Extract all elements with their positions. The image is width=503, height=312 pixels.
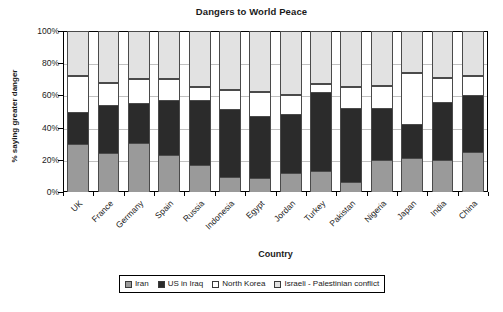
bar-segment[interactable] <box>189 31 211 87</box>
bar-segment[interactable] <box>67 76 89 111</box>
bar-segment[interactable] <box>158 31 180 79</box>
bar-slot <box>427 31 457 192</box>
bar-segment[interactable] <box>219 31 241 90</box>
stacked-bar[interactable] <box>189 31 211 192</box>
bar-segment[interactable] <box>340 87 362 107</box>
bar-segment[interactable] <box>189 100 211 164</box>
bar-segment[interactable] <box>371 86 393 109</box>
bar-segment[interactable] <box>432 160 454 192</box>
stacked-bar[interactable] <box>249 31 271 192</box>
stacked-bar[interactable] <box>67 31 89 192</box>
bar-segment[interactable] <box>371 31 393 86</box>
stacked-bar[interactable] <box>219 31 241 192</box>
bar-segment[interactable] <box>219 109 241 177</box>
y-axis-tick-label: 60% <box>25 91 59 100</box>
bar-slot <box>184 31 214 192</box>
bar-segment[interactable] <box>280 95 302 114</box>
x-axis-tick-mark <box>367 192 368 196</box>
bar-segment[interactable] <box>401 124 423 158</box>
legend-swatch-icon <box>274 281 281 288</box>
stacked-bar[interactable] <box>128 31 150 192</box>
x-axis-category-label: India <box>429 199 448 218</box>
bar-segment[interactable] <box>310 84 332 92</box>
y-axis-tick-label: 40% <box>25 124 59 133</box>
stacked-bar[interactable] <box>98 31 120 192</box>
bar-segment[interactable] <box>189 87 211 100</box>
bar-segment[interactable] <box>310 171 332 192</box>
bar-segment[interactable] <box>432 31 454 78</box>
bar-segment[interactable] <box>158 155 180 192</box>
bar-slot <box>336 31 366 192</box>
bar-segment[interactable] <box>98 83 120 106</box>
bar-segment[interactable] <box>371 160 393 192</box>
bar-segment[interactable] <box>249 116 271 178</box>
bar-segment[interactable] <box>249 31 271 92</box>
x-axis-category-label: Spain <box>154 199 176 221</box>
bar-slot <box>276 31 306 192</box>
bar-segment[interactable] <box>249 92 271 116</box>
legend-item[interactable]: Israeli - Palestinian conflict <box>274 280 379 288</box>
stacked-bar[interactable] <box>158 31 180 192</box>
bar-segment[interactable] <box>371 108 393 160</box>
stacked-bar[interactable] <box>432 31 454 192</box>
stacked-bar[interactable] <box>371 31 393 192</box>
bar-segment[interactable] <box>249 178 271 192</box>
stacked-bar[interactable] <box>462 31 484 192</box>
legend-item[interactable]: North Korea <box>212 280 265 288</box>
legend-item[interactable]: Iran <box>125 280 149 288</box>
bar-segment[interactable] <box>98 153 120 192</box>
bar-segment[interactable] <box>340 182 362 192</box>
legend-item[interactable]: US in Iraq <box>158 280 204 288</box>
bar-segment[interactable] <box>401 31 423 73</box>
bar-segment[interactable] <box>462 31 484 76</box>
bar-segment[interactable] <box>401 73 423 125</box>
bar-segment[interactable] <box>158 79 180 100</box>
bar-segment[interactable] <box>98 31 120 83</box>
bar-segment[interactable] <box>462 95 484 151</box>
bar-slot <box>306 31 336 192</box>
bar-segment[interactable] <box>128 103 150 143</box>
bar-segment[interactable] <box>67 112 89 144</box>
bar-segment[interactable] <box>219 177 241 192</box>
bar-segment[interactable] <box>128 143 150 192</box>
stacked-bar[interactable] <box>280 31 302 192</box>
bar-segment[interactable] <box>280 114 302 173</box>
x-axis-tick-mark <box>184 192 185 196</box>
x-axis-category-label: China <box>457 199 479 221</box>
bar-segment[interactable] <box>310 92 332 171</box>
y-axis-tick-label: 100% <box>25 27 59 36</box>
x-axis-tick-mark <box>397 192 398 196</box>
bar-segment[interactable] <box>462 76 484 95</box>
bar-segment[interactable] <box>189 165 211 192</box>
bar-segment[interactable] <box>462 152 484 192</box>
x-axis-category-slot: Indonesia <box>215 197 245 243</box>
bar-segment[interactable] <box>340 108 362 182</box>
legend-label: US in Iraq <box>168 280 204 288</box>
bar-segment[interactable] <box>280 31 302 95</box>
stacked-bar[interactable] <box>340 31 362 192</box>
x-axis-category-slot: Japan <box>397 197 427 243</box>
bar-segment[interactable] <box>158 100 180 155</box>
bar-segment[interactable] <box>310 31 332 84</box>
bar-segment[interactable] <box>432 102 454 160</box>
bar-segment[interactable] <box>128 31 150 79</box>
x-axis-tick-mark <box>124 192 125 196</box>
bar-segment[interactable] <box>280 173 302 192</box>
bar-segment[interactable] <box>128 79 150 102</box>
x-axis-category-label: UK <box>70 199 85 214</box>
bar-segment[interactable] <box>219 90 241 109</box>
x-axis-category-slot: Pakistan <box>336 197 366 243</box>
bar-segment[interactable] <box>401 158 423 192</box>
bar-segment[interactable] <box>98 105 120 153</box>
bar-segment[interactable] <box>67 144 89 192</box>
bar-slot <box>245 31 275 192</box>
legend-label: Israeli - Palestinian conflict <box>284 280 379 288</box>
stacked-bar[interactable] <box>310 31 332 192</box>
y-axis-tick-label: 80% <box>25 59 59 68</box>
bar-segment[interactable] <box>432 78 454 102</box>
stacked-bar[interactable] <box>401 31 423 192</box>
bar-segment[interactable] <box>67 31 89 76</box>
bars-layer <box>63 31 488 192</box>
bar-segment[interactable] <box>340 31 362 87</box>
chart-container: Dangers to World Peace % saying greater … <box>0 0 503 312</box>
